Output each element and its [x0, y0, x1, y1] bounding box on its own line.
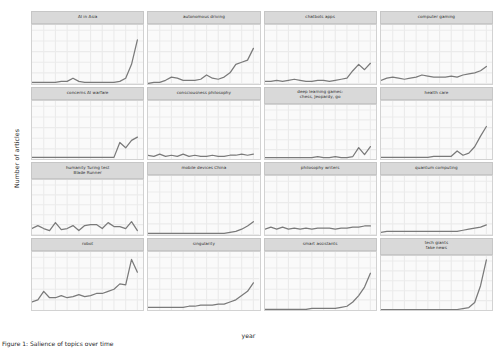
plot-area [147, 175, 260, 236]
facet-title-text: health care [425, 91, 449, 96]
y-axis-ticks: 01020304050 [31, 252, 32, 311]
plot-area [147, 100, 260, 161]
plot-area: 01020304050 [31, 100, 144, 161]
y-tick-mark [31, 224, 32, 225]
y-tick-mark [31, 267, 32, 268]
x-axis-ticks: 200220042006200820102012201420162018 [381, 310, 492, 311]
x-tick-mark [428, 310, 429, 311]
y-tick-mark [31, 127, 32, 128]
facet-panel: tech giants fake news2002200420062008201… [380, 238, 493, 312]
plot-area [147, 24, 260, 85]
facet-strip-label: computer gaming [380, 11, 493, 24]
y-tick-mark [31, 214, 32, 215]
x-tick-mark [67, 310, 68, 311]
facet-grid: AI in Asia01020304050autonomous drivingc… [31, 11, 493, 311]
x-tick-mark [242, 310, 243, 311]
facet-title-text: chatbots apps [305, 15, 335, 20]
facet-panel: autonomous driving [147, 11, 260, 85]
x-tick-mark [463, 310, 464, 311]
plot-area: 200220042006200820102012201420162018 [147, 251, 260, 312]
facet-panel: smart assistants200220042006200820102012… [264, 238, 377, 312]
x-tick-mark [114, 310, 115, 311]
facet-title-text: philosophy writers [301, 166, 340, 171]
x-tick-mark [79, 310, 80, 311]
facet-panel: consciousness philosophy [147, 87, 260, 161]
plot-area [380, 100, 493, 161]
x-tick-mark [219, 310, 220, 311]
facet-strip-label: humanity Turing test Blade Runner [31, 162, 144, 179]
x-tick-mark [230, 310, 231, 311]
facet-title-text: deep learning games: chess, Jeopardy, go [297, 90, 343, 99]
facet-panel: robot01020304050200220042006200820102012… [31, 238, 144, 312]
y-tick-mark [31, 137, 32, 138]
figure-root: Number of articles year AI in Asia010203… [0, 0, 497, 350]
x-tick-mark [137, 310, 138, 311]
y-tick-mark [31, 73, 32, 74]
y-tick-mark [31, 148, 32, 149]
x-tick-mark [358, 310, 359, 311]
facet-strip-label: singularity [147, 238, 260, 251]
x-tick-mark [288, 310, 289, 311]
x-tick-mark [276, 310, 277, 311]
facet-panel: humanity Turing test Blade Runner0102030… [31, 162, 144, 236]
facet-panel: AI in Asia01020304050 [31, 11, 144, 85]
plot-area: 01020304050 [31, 24, 144, 85]
y-tick-mark [31, 116, 32, 117]
x-tick-mark [474, 310, 475, 311]
plot-area: 200220042006200820102012201420162018 [264, 251, 377, 312]
facet-title-text: computer gaming [418, 15, 455, 20]
facet-title-text: robot [82, 242, 93, 247]
facet-strip-label: deep learning games: chess, Jeopardy, go [264, 87, 377, 104]
x-tick-mark [451, 310, 452, 311]
x-tick-mark [195, 310, 196, 311]
y-tick-mark [31, 83, 32, 84]
facet-strip-label: AI in Asia [31, 11, 144, 24]
facet-title-text: humanity Turing test Blade Runner [66, 166, 109, 175]
facet-strip-label: health care [380, 87, 493, 100]
x-tick-mark [44, 310, 45, 311]
facet-strip-label: chatbots apps [264, 11, 377, 24]
facet-panel: quantum computing [380, 162, 493, 236]
facet-panel: computer gaming [380, 11, 493, 85]
y-tick-mark [31, 106, 32, 107]
facet-title-text: AI in Asia [78, 15, 97, 20]
plot-area: 200220042006200820102012201420162018 [380, 255, 493, 312]
x-tick-mark [311, 310, 312, 311]
plot-area [380, 175, 493, 236]
plot-area: 0102030405020022004200620082010201220142… [31, 251, 144, 312]
facet-title-text: consciousness philosophy [177, 91, 231, 96]
facet-panel: mobile devices China [147, 162, 260, 236]
x-tick-mark [370, 310, 371, 311]
y-tick-mark [31, 62, 32, 63]
y-tick-mark [31, 185, 32, 186]
facet-strip-label: consciousness philosophy [147, 87, 260, 100]
y-tick-mark [31, 51, 32, 52]
x-tick-mark [323, 310, 324, 311]
facet-strip-label: autonomous driving [147, 11, 260, 24]
facet-strip-label: robot [31, 238, 144, 251]
facet-strip-label: concerns AI warfare [31, 87, 144, 100]
plot-area [380, 24, 493, 85]
y-tick-mark [31, 195, 32, 196]
x-tick-mark [160, 310, 161, 311]
facet-title-text: tech giants fake news [425, 241, 448, 250]
x-tick-mark [392, 310, 393, 311]
facet-strip-label: smart assistants [264, 238, 377, 251]
facet-title-text: singularity [193, 242, 215, 247]
facet-title-text: smart assistants [303, 242, 338, 247]
facet-title-text: quantum computing [415, 166, 458, 171]
x-tick-mark [335, 310, 336, 311]
x-tick-mark [91, 310, 92, 311]
facet-strip-label: tech giants fake news [380, 238, 493, 255]
x-tick-mark [416, 310, 417, 311]
y-tick-mark [31, 30, 32, 31]
facet-panel: singularity20022004200620082010201220142… [147, 238, 260, 312]
facet-title-text: autonomous driving [183, 15, 225, 20]
x-tick-mark [207, 310, 208, 311]
y-tick-mark [31, 257, 32, 258]
x-tick-mark [404, 310, 405, 311]
y-tick-mark [31, 205, 32, 206]
facet-title-text: concerns AI warfare [67, 91, 109, 96]
y-axis-ticks: 01020304050 [31, 25, 32, 84]
y-tick-mark [31, 299, 32, 300]
